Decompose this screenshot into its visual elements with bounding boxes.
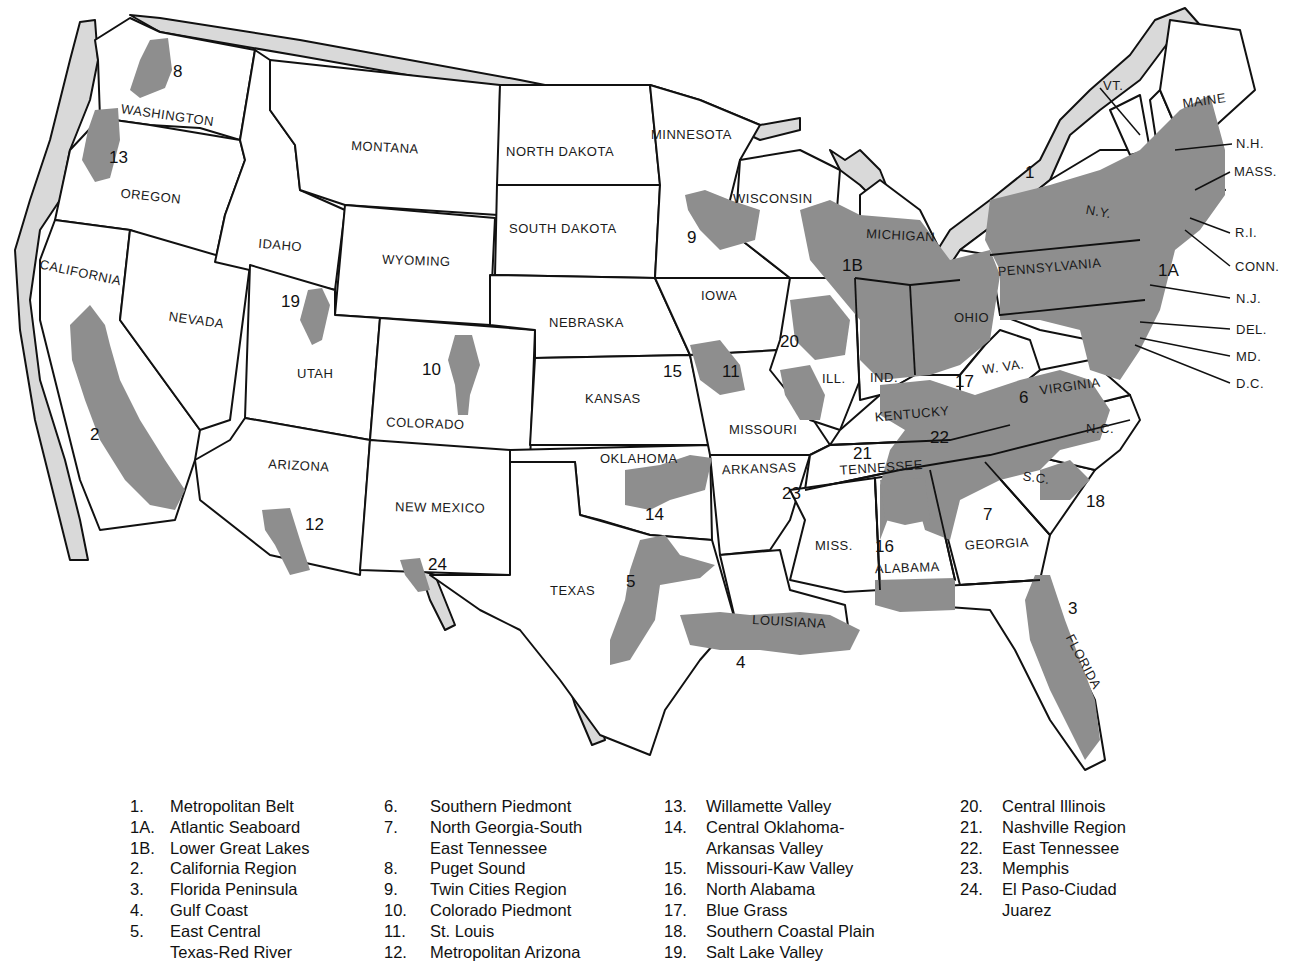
marker-8: 8	[173, 62, 182, 81]
label-illinois: ILL.	[822, 371, 846, 386]
legend-label: Colorado Piedmont	[430, 900, 571, 921]
marker-1a: 1A	[1158, 261, 1179, 280]
us-urban-regions-map: WASHINGTON OREGON CALIFORNIA NEVADA IDAH…	[0, 0, 1292, 780]
marker-9: 9	[687, 228, 696, 247]
label-wisconsin: WISCONSIN	[733, 191, 813, 206]
label-utah: UTAH	[297, 366, 333, 381]
legend-key: 23.	[960, 858, 1002, 879]
label-missouri: MISSOURI	[729, 422, 797, 437]
legend-item: Juarez	[960, 900, 1126, 921]
state-montana	[270, 60, 500, 215]
legend-item: Arkansas Valley	[664, 838, 875, 859]
legend-item: 14.Central Oklahoma-	[664, 817, 875, 838]
legend-label: Juarez	[1002, 900, 1052, 921]
marker-1: 1	[1025, 163, 1034, 182]
legend-key: 4.	[130, 900, 170, 921]
legend-item: 3.Florida Peninsula	[130, 879, 309, 900]
legend-label: East Tennessee	[430, 838, 547, 859]
label-mississippi: MISS.	[815, 538, 853, 553]
legend-key: 7.	[384, 817, 430, 838]
marker-5: 5	[626, 572, 635, 591]
label-texas: TEXAS	[550, 583, 595, 598]
legend-key	[664, 838, 706, 859]
legend-label: Central Illinois	[1002, 796, 1106, 817]
label-new-hampshire: N.H.	[1236, 136, 1264, 151]
legend-key: 6.	[384, 796, 430, 817]
label-oklahoma: OKLAHOMA	[600, 451, 678, 466]
marker-20: 20	[780, 332, 799, 351]
state-colorado	[370, 318, 535, 462]
legend-item: 7.North Georgia-South	[384, 817, 582, 838]
label-arizona: ARIZONA	[268, 456, 330, 474]
legend-item: 16.North Alabama	[664, 879, 875, 900]
label-dc: D.C.	[1236, 376, 1264, 391]
legend-item: East Tennessee	[384, 838, 582, 859]
legend-item: Texas-Red River	[130, 942, 309, 963]
legend-item: 12.Metropolitan Arizona	[384, 942, 582, 963]
legend-label: Southern Piedmont	[430, 796, 571, 817]
label-minnesota: MINNESOTA	[651, 127, 732, 142]
state-mississippi	[790, 478, 880, 592]
label-colorado: COLORADO	[386, 414, 465, 432]
legend-key: 8.	[384, 858, 430, 879]
legend-item: 22.East Tennessee	[960, 838, 1126, 859]
legend-key: 14.	[664, 817, 706, 838]
legend-key	[130, 942, 170, 963]
label-delaware: DEL.	[1236, 322, 1267, 337]
legend-item: 11.St. Louis	[384, 921, 582, 942]
legend-label: Central Oklahoma-	[706, 817, 844, 838]
label-connecticut: CONN.	[1235, 259, 1279, 274]
legend-key: 21.	[960, 817, 1002, 838]
legend-label: Puget Sound	[430, 858, 525, 879]
marker-14: 14	[645, 505, 664, 524]
legend-label: Gulf Coast	[170, 900, 248, 921]
legend-label: Atlantic Seaboard	[170, 817, 300, 838]
legend-item: 19.Salt Lake Valley	[664, 942, 875, 963]
legend-column-4: 20.Central Illinois21.Nashville Region22…	[960, 796, 1126, 921]
legend-label: Blue Grass	[706, 900, 788, 921]
legend-item: 15.Missouri-Kaw Valley	[664, 858, 875, 879]
legend-label: North Georgia-South	[430, 817, 582, 838]
state-north-dakota	[497, 85, 660, 185]
legend-key: 1.	[130, 796, 170, 817]
legend-key: 20.	[960, 796, 1002, 817]
marker-16: 16	[875, 537, 894, 556]
legend-key: 1A.	[130, 817, 170, 838]
legend-item: 18.Southern Coastal Plain	[664, 921, 875, 942]
marker-10: 10	[422, 360, 441, 379]
label-alabama: ALABAMA	[875, 559, 940, 576]
legend-item: 1B.Lower Great Lakes	[130, 838, 309, 859]
legend-label: California Region	[170, 858, 297, 879]
legend-key: 17.	[664, 900, 706, 921]
legend-key: 24.	[960, 879, 1002, 900]
marker-11: 11	[722, 362, 740, 381]
marker-19: 19	[281, 292, 300, 311]
legend-item: 13.Willamette Valley	[664, 796, 875, 817]
region-gulf-alabama	[875, 578, 955, 612]
legend-label: Nashville Region	[1002, 817, 1126, 838]
legend-item: 1.Metropolitan Belt	[130, 796, 309, 817]
legend-key: 3.	[130, 879, 170, 900]
legend-key	[384, 838, 430, 859]
legend-key: 5.	[130, 921, 170, 942]
legend-key: 2.	[130, 858, 170, 879]
label-rhode-island: R.I.	[1235, 225, 1257, 240]
marker-3: 3	[1068, 599, 1077, 618]
legend-item: 23.Memphis	[960, 858, 1126, 879]
legend-item: 10.Colorado Piedmont	[384, 900, 582, 921]
legend-key: 13.	[664, 796, 706, 817]
legend-label: North Alabama	[706, 879, 815, 900]
legend-item: 21.Nashville Region	[960, 817, 1126, 838]
legend-item: 4.Gulf Coast	[130, 900, 309, 921]
label-wyoming: WYOMING	[382, 252, 451, 269]
label-maryland: MD.	[1236, 349, 1261, 364]
legend-key	[960, 900, 1002, 921]
marker-6: 6	[1019, 388, 1028, 407]
legend-item: 5.East Central	[130, 921, 309, 942]
legend-label: El Paso-Ciudad	[1002, 879, 1117, 900]
legend-column-3: 13.Willamette Valley14.Central Oklahoma-…	[664, 796, 875, 962]
legend-label: Texas-Red River	[170, 942, 292, 963]
marker-2: 2	[90, 425, 99, 444]
marker-22: 22	[930, 428, 949, 447]
legend-column-2: 6.Southern Piedmont7.North Georgia-South…	[384, 796, 582, 962]
